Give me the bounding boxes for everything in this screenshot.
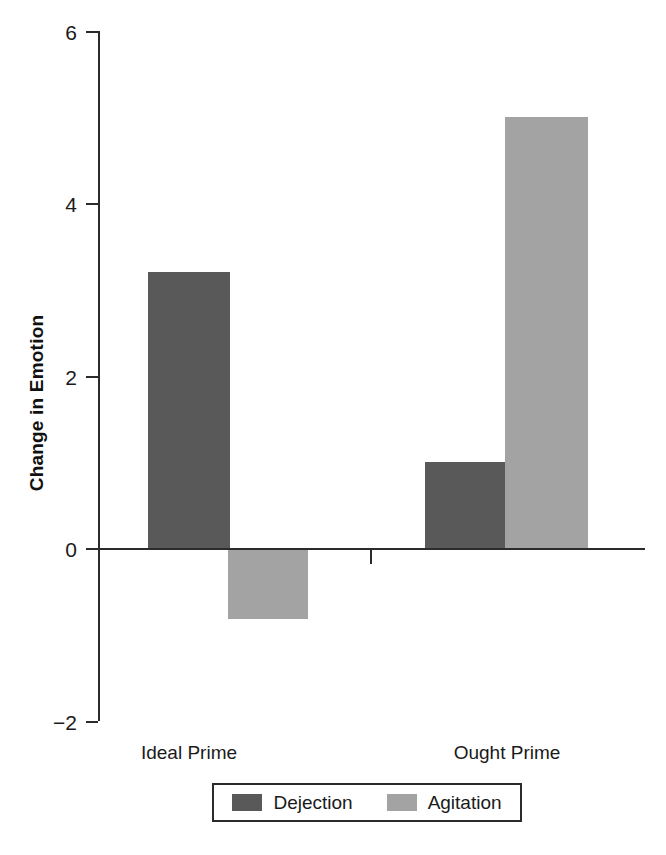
- legend-label-agitation: Agitation: [428, 793, 502, 812]
- bar-ought-agitation: [505, 117, 588, 548]
- legend-label-dejection: Dejection: [273, 793, 352, 812]
- plot-area: [0, 0, 666, 855]
- legend-swatch-agitation: [387, 794, 417, 811]
- legend-swatch-dejection: [232, 794, 262, 811]
- legend: Dejection Agitation: [212, 783, 522, 822]
- bar-chart: Change in Emotion 6 4 2 0 −2 Ideal Prime…: [0, 0, 666, 855]
- bar-ideal-dejection: [148, 272, 230, 548]
- bar-ideal-agitation: [228, 550, 308, 619]
- bar-ought-dejection: [425, 462, 507, 548]
- category-label-ideal-prime: Ideal Prime: [109, 742, 269, 764]
- legend-item-dejection: Dejection: [232, 793, 352, 812]
- legend-item-agitation: Agitation: [387, 793, 502, 812]
- category-label-ought-prime: Ought Prime: [427, 742, 587, 764]
